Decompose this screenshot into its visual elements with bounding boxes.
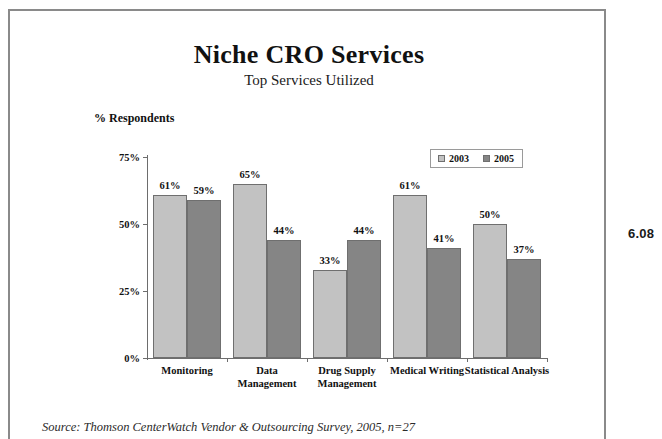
y-axis-tick-mark bbox=[143, 224, 147, 225]
bar-value-label: 37% bbox=[514, 244, 535, 255]
legend-label-2003: 2003 bbox=[449, 153, 469, 164]
bar-value-label: 41% bbox=[434, 233, 455, 244]
bar-2003-2 bbox=[313, 270, 347, 358]
y-axis-title: % Respondents bbox=[94, 111, 174, 126]
chart-title: Niche CRO Services bbox=[10, 40, 608, 70]
chart-subtitle: Top Services Utilized bbox=[10, 72, 608, 89]
bar-value-label: 33% bbox=[320, 255, 341, 266]
bar-value-label: 44% bbox=[274, 225, 295, 236]
x-axis-tick-mark bbox=[307, 358, 308, 362]
bar-2003-4 bbox=[473, 224, 507, 358]
y-axis-tick-mark bbox=[143, 157, 147, 158]
legend-item-2005[interactable]: 2005 bbox=[483, 153, 514, 164]
bar-value-label: 61% bbox=[160, 180, 181, 191]
bar-value-label: 50% bbox=[480, 209, 501, 220]
x-axis-category-label: Statistical Analysis bbox=[465, 364, 549, 377]
x-axis-tick-mark bbox=[227, 358, 228, 362]
x-axis-tick-mark bbox=[547, 358, 548, 362]
bar-2005-0 bbox=[187, 200, 221, 358]
legend-item-2003[interactable]: 2003 bbox=[438, 153, 469, 164]
y-axis-tick-mark bbox=[143, 291, 147, 292]
bar-value-label: 59% bbox=[194, 185, 215, 196]
legend-label-2005: 2005 bbox=[494, 153, 514, 164]
bar-value-label: 61% bbox=[400, 180, 421, 191]
bar-2003-3 bbox=[393, 195, 427, 358]
source-note: Source: Thomson CenterWatch Vendor & Out… bbox=[42, 420, 415, 435]
bar-2005-3 bbox=[427, 248, 461, 358]
legend-swatch-2005 bbox=[483, 155, 490, 162]
x-axis-category-label: Monitoring bbox=[161, 364, 212, 377]
bar-2005-2 bbox=[347, 240, 381, 358]
chart-legend: 2003 2005 bbox=[430, 149, 523, 168]
legend-swatch-2003 bbox=[438, 155, 445, 162]
bar-2005-1 bbox=[267, 240, 301, 358]
plot-area: 0%25%50%75%61%59%65%44%33%44%61%41%50%37… bbox=[147, 157, 547, 358]
x-axis-tick-mark bbox=[387, 358, 388, 362]
x-axis-line bbox=[147, 358, 547, 359]
page-frame: Niche CRO Services Top Services Utilized… bbox=[8, 9, 606, 439]
y-axis-tick-mark bbox=[143, 358, 147, 359]
x-axis-tick-mark bbox=[467, 358, 468, 362]
bar-2005-4 bbox=[507, 259, 541, 358]
x-axis-category-label: Medical Writing bbox=[390, 364, 464, 377]
x-axis-category-label: Drug Supply Management bbox=[318, 364, 377, 390]
bar-2003-1 bbox=[233, 184, 267, 358]
x-axis-category-label: Data Management bbox=[238, 364, 297, 390]
bar-value-label: 44% bbox=[354, 225, 375, 236]
bar-value-label: 65% bbox=[240, 169, 261, 180]
margin-note: 6.08 bbox=[628, 226, 654, 241]
bar-2003-0 bbox=[153, 195, 187, 358]
